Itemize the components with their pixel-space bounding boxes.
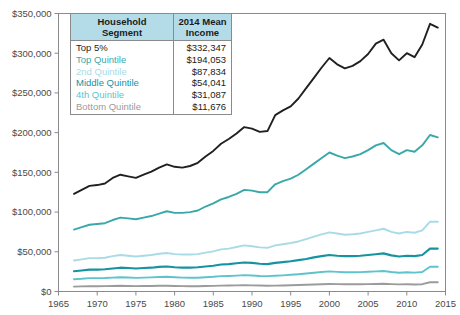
legend-income-value: $87,834 (174, 66, 232, 78)
legend-income-value: $54,041 (174, 77, 232, 89)
y-axis-ticks (55, 14, 59, 292)
legend-table-body: Top 5%$332,347Top Quintile$194,0532nd Qu… (71, 41, 231, 114)
legend-segment-label: 4th Quintile (71, 89, 174, 101)
x-axis-tick-label: 2000 (319, 298, 340, 309)
y-axis-tick-label: $300,000 (12, 48, 52, 59)
x-axis-tick-label: 1965 (48, 298, 69, 309)
x-axis-tick-label: 2005 (358, 298, 379, 309)
legend-segment-label: Top Quintile (71, 54, 174, 66)
legend-header-row: Household Segment 2014 Mean Income (71, 14, 231, 41)
x-axis-tick-label: 1975 (125, 298, 146, 309)
x-axis-tick-label: 1985 (203, 298, 224, 309)
y-axis-labels: $0$50,000$100,000$150,000$200,000$250,00… (12, 8, 52, 297)
legend-header-segment: Household Segment (71, 14, 174, 41)
x-axis-labels: 1965197019751980198519901995200020052010… (48, 298, 456, 309)
chart-container: $0$50,000$100,000$150,000$200,000$250,00… (0, 0, 460, 315)
legend-income-value: $194,053 (174, 54, 232, 66)
legend-header-income-line1: 2014 Mean (178, 16, 226, 27)
x-axis-tick-label: 2010 (396, 298, 417, 309)
legend-segment-label: 2nd Quintile (71, 66, 174, 78)
legend-income-value: $11,676 (174, 101, 232, 114)
legend-segment-label: Bottom Quintile (71, 101, 174, 114)
legend-header-segment-line2: Segment (102, 27, 142, 38)
y-axis-tick-label: $100,000 (12, 206, 52, 217)
x-axis-tick-label: 1970 (87, 298, 108, 309)
y-axis-tick-label: $50,000 (17, 246, 51, 257)
legend-row: Bottom Quintile$11,676 (71, 101, 231, 114)
legend-row: Top Quintile$194,053 (71, 54, 231, 66)
legend-header-income-line2: Income (186, 27, 219, 38)
y-axis-tick-label: $250,000 (12, 87, 52, 98)
legend-table: Household Segment 2014 Mean Income Top 5… (71, 14, 231, 114)
legend-income-value: $332,347 (174, 41, 232, 54)
legend-segment-label: Top 5% (71, 41, 174, 54)
legend-row: Top 5%$332,347 (71, 41, 231, 54)
y-axis-tick-label: $200,000 (12, 127, 52, 138)
legend-row: 2nd Quintile$87,834 (71, 66, 231, 78)
x-axis-ticks (59, 292, 446, 296)
x-axis-tick-label: 1995 (280, 298, 301, 309)
legend-segment-label: Middle Quintile (71, 77, 174, 89)
x-axis-tick-label: 1990 (241, 298, 262, 309)
legend-header-income: 2014 Mean Income (174, 14, 232, 41)
y-axis-tick-label: $350,000 (12, 8, 52, 19)
x-axis-tick-label: 2015 (435, 298, 456, 309)
legend-row: Middle Quintile$54,041 (71, 77, 231, 89)
y-axis-tick-label: $150,000 (12, 167, 52, 178)
legend-header-segment-line1: Household (97, 16, 146, 27)
legend-table-box: Household Segment 2014 Mean Income Top 5… (70, 13, 232, 115)
legend-income-value: $31,087 (174, 89, 232, 101)
x-axis-tick-label: 1980 (164, 298, 185, 309)
legend-table-head: Household Segment 2014 Mean Income (71, 14, 231, 41)
y-axis-tick-label: $0 (41, 286, 52, 297)
legend-row: 4th Quintile$31,087 (71, 89, 231, 101)
